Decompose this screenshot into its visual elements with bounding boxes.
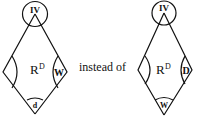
right-center-label-sup: D [165, 62, 171, 71]
left-angle-arc [145, 56, 150, 84]
left-angle-arc [12, 56, 17, 88]
left-diamond [3, 2, 67, 115]
left-top-circle-label: IV [30, 5, 41, 15]
left-bottom-angle-label: d [33, 101, 38, 110]
bottom-angle-arc [27, 98, 43, 100]
right-diamond [138, 1, 192, 115]
left-center-label-sup: D [39, 62, 45, 71]
bottom-angle-arc [155, 98, 173, 101]
left-right-angle-label: W [54, 67, 64, 78]
right-top-circle-label: IV [159, 3, 170, 13]
left-center-label-base: R [30, 62, 39, 77]
right-center-label-base: R [156, 62, 165, 77]
figure: IV R D W d IV R D D W instead of [0, 0, 203, 118]
right-bottom-angle-label: W [160, 101, 168, 110]
right-right-angle-label: D [182, 65, 189, 76]
diagram-canvas: IV R D W d IV R D D W [0, 0, 203, 118]
connector-text: instead of [79, 60, 126, 75]
